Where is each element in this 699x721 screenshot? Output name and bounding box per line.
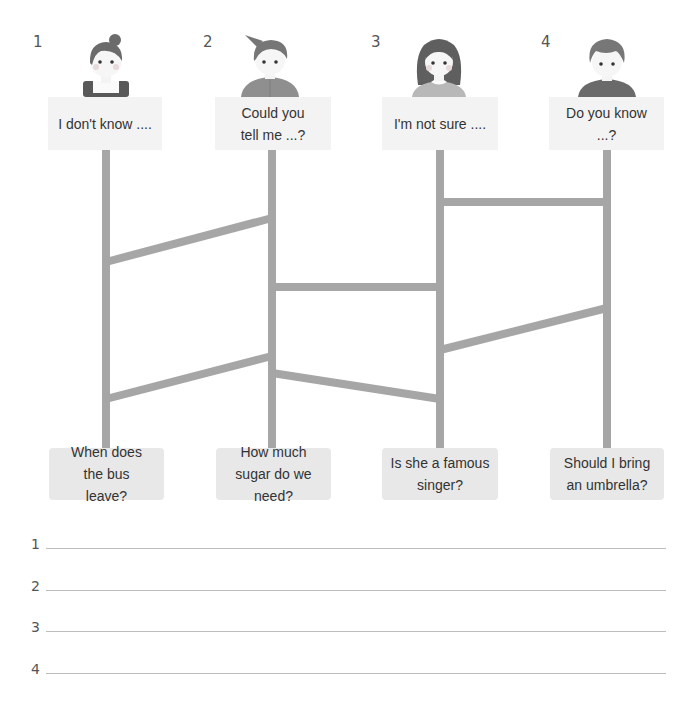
answer-line-2[interactable]: [46, 590, 666, 591]
question-text: Should I bring an umbrella?: [560, 452, 654, 496]
prompt-box-4: Do you know ...?: [549, 97, 664, 150]
prompt-text: I don't know ....: [58, 113, 152, 135]
prompt-box-1: I don't know ....: [48, 97, 162, 150]
prompt-box-2: Could you tell me ...?: [215, 97, 331, 150]
ladder-rung: [272, 373, 440, 399]
prompt-text: Could you tell me ...?: [231, 102, 315, 146]
prompt-box-3: I'm not sure ....: [382, 97, 498, 150]
answer-line-3[interactable]: [46, 631, 666, 632]
answer-line-4[interactable]: [46, 673, 666, 674]
ladder-rung: [106, 356, 272, 399]
question-text: When does the bus leave?: [63, 441, 150, 507]
answer-number-2: 2: [31, 578, 40, 594]
answer-line-1[interactable]: [46, 548, 666, 549]
prompt-text: Do you know ...?: [555, 102, 658, 146]
answer-number-4: 4: [31, 661, 40, 677]
question-box-3: Is she a famous singer?: [382, 448, 498, 500]
answer-number-3: 3: [31, 619, 40, 635]
answer-number-1: 1: [31, 536, 40, 552]
question-box-4: Should I bring an umbrella?: [550, 448, 664, 500]
question-box-1: When does the bus leave?: [49, 448, 164, 500]
ladder-rung: [440, 308, 607, 350]
ladder-rung: [106, 218, 272, 262]
prompt-text: I'm not sure ....: [394, 113, 486, 135]
question-text: Is she a famous singer?: [390, 452, 490, 496]
question-text: How much sugar do we need?: [224, 441, 323, 507]
question-box-2: How much sugar do we need?: [216, 448, 331, 500]
